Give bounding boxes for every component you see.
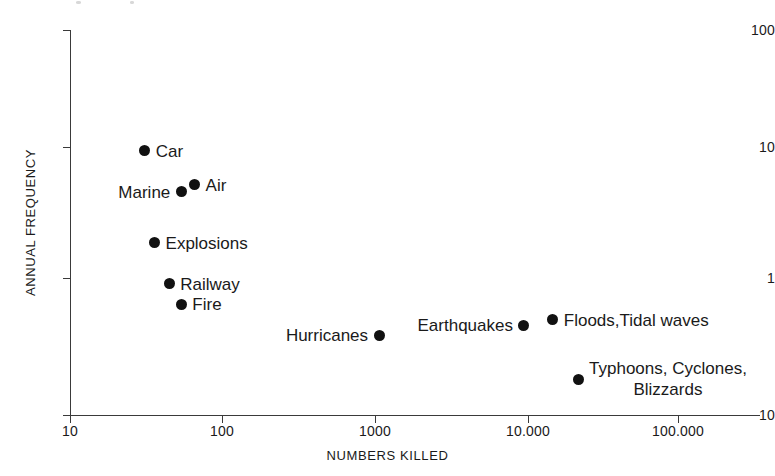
data-point-label: Floods,Tidal waves — [564, 309, 709, 330]
data-point-label: Earthquakes — [418, 315, 513, 336]
data-point — [547, 314, 558, 325]
y-tick-10 — [63, 147, 71, 148]
y-axis-line — [70, 30, 71, 416]
scan-artifact — [130, 1, 134, 4]
data-point-label: Explosions — [166, 232, 248, 253]
data-point — [149, 237, 160, 248]
y-ticklabel-100: 100 — [725, 23, 775, 37]
data-point-label: Fire — [192, 294, 221, 315]
x-ticklabel-1000: 1000 — [359, 424, 391, 439]
scan-artifact — [76, 1, 81, 4]
x-tick-1000 — [375, 415, 376, 423]
data-point — [176, 186, 187, 197]
y-ticklabel-1: 1 — [725, 271, 775, 285]
data-point — [139, 145, 150, 156]
y-tick-1 — [63, 278, 71, 279]
x-tick-10000 — [528, 415, 529, 423]
data-point-label-line2: Blizzards — [589, 379, 747, 400]
data-point-label: Typhoons, Cyclones,Blizzards — [589, 358, 747, 400]
y-axis-title: ANNUAL FREQUENCY — [23, 133, 38, 313]
y-ticklabel-10: 10 — [725, 140, 775, 154]
data-point-label: Marine — [118, 181, 170, 202]
x-ticklabel-10: 10 — [62, 424, 78, 439]
data-point-label: Hurricanes — [286, 325, 368, 346]
data-point — [573, 374, 584, 385]
x-ticklabel-100000: 100.000 — [652, 424, 704, 439]
data-point — [176, 299, 187, 310]
x-ticklabel-100: 100 — [210, 424, 234, 439]
x-tick-100000 — [678, 415, 679, 423]
chart-figure: 100 10 1 10 10 100 1000 10.000 100.000 A… — [0, 0, 775, 476]
x-tick-100 — [222, 415, 223, 423]
data-point-label: Railway — [180, 273, 240, 294]
data-point — [374, 330, 385, 341]
x-ticklabel-10000: 10.000 — [506, 424, 550, 439]
data-point — [518, 320, 529, 331]
x-axis-title: NUMBERS KILLED — [0, 448, 775, 463]
data-point-label: Air — [206, 174, 227, 195]
x-tick-10 — [70, 415, 71, 423]
data-point-label: Car — [156, 140, 183, 161]
y-tick-100 — [63, 30, 71, 31]
x-axis-line — [70, 415, 760, 416]
y-ticklabel-0.1: 10 — [725, 408, 775, 422]
data-point — [189, 179, 200, 190]
data-point — [164, 278, 175, 289]
